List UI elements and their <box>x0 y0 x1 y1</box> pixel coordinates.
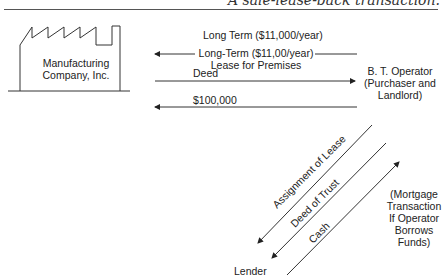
operator-line1: B. T. Operator <box>360 65 440 77</box>
mortgage-note-line3: If Operator <box>386 212 442 224</box>
operator-line2: (Purchaser and <box>360 77 440 89</box>
factory-name-line2: Company, Inc. <box>40 69 112 81</box>
cash-label: Cash <box>306 219 332 245</box>
lease-label-line1: Long-Term ($11,00/year) <box>196 47 316 59</box>
factory-name-line1: Manufacturing <box>40 57 112 69</box>
deed-label: Deed <box>193 67 218 79</box>
mortgage-note-line2: Transaction <box>386 200 442 212</box>
mortgage-note: (Mortgage Transaction If Operator Borrow… <box>386 188 442 248</box>
mortgage-note-line1: (Mortgage <box>386 188 442 200</box>
operator-line3: Landlord) <box>360 89 440 101</box>
long-term-label: Long Term ($11,000/year) <box>203 29 323 41</box>
amount-label: $100,000 <box>193 94 237 106</box>
mortgage-note-line4: Borrows <box>386 224 442 236</box>
mortgage-note-line5: Funds) <box>386 236 442 248</box>
lender-label: Lender <box>234 265 267 277</box>
factory-label: Manufacturing Company, Inc. <box>40 57 112 81</box>
diagram-lines: Assignment of Lease Deed of Trust Cash <box>0 0 442 280</box>
operator-label: B. T. Operator (Purchaser and Landlord) <box>360 65 440 101</box>
